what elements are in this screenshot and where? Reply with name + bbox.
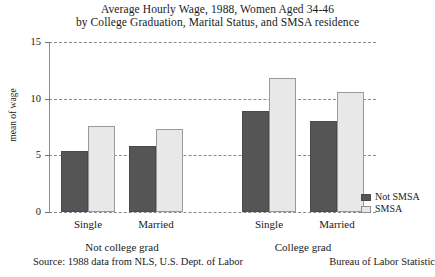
legend-item-smsa: SMSA — [361, 203, 420, 215]
bar-not-smsa-3 — [310, 121, 337, 212]
category-label-1: Married — [117, 218, 195, 230]
bar-not-smsa-0 — [61, 151, 88, 212]
bar-smsa-1 — [156, 129, 183, 212]
bar-not-smsa-2 — [242, 111, 269, 212]
bar-smsa-0 — [88, 126, 115, 212]
category-label-0: Single — [49, 218, 127, 230]
category-label-2: Single — [230, 218, 308, 230]
chart-legend: Not SMSA SMSA — [361, 191, 420, 215]
y-tick-0 — [45, 212, 50, 213]
plot-area: mean of wage 051015 SingleMarriedSingleM… — [0, 0, 435, 277]
source-note-right: Bureau of Labor Statistic — [329, 256, 435, 267]
group-label-0: Not college grad — [61, 241, 183, 253]
gridline-10 — [49, 99, 376, 100]
legend-swatch-not-smsa — [361, 194, 371, 201]
bar-smsa-2 — [269, 78, 296, 212]
y-tick-label-10: 10 — [0, 94, 41, 104]
chart-figure: Average Hourly Wage, 1988, Women Aged 34… — [0, 0, 435, 277]
y-tick-label-15: 15 — [0, 37, 41, 47]
source-note-left: Source: 1988 data from NLS, U.S. Dept. o… — [33, 256, 243, 267]
legend-label-smsa: SMSA — [375, 203, 402, 215]
y-tick-10 — [45, 99, 50, 100]
gridline-15 — [49, 42, 376, 43]
y-tick-label-0: 0 — [0, 207, 41, 217]
y-axis-line — [49, 42, 50, 213]
category-label-3: Married — [298, 218, 376, 230]
group-label-1: College grad — [242, 241, 364, 253]
legend-label-not-smsa: Not SMSA — [375, 191, 420, 203]
gridline-0 — [49, 212, 376, 213]
y-tick-label-5: 5 — [0, 150, 41, 160]
bar-not-smsa-1 — [129, 146, 156, 212]
y-tick-5 — [45, 155, 50, 156]
bar-smsa-3 — [337, 92, 364, 212]
legend-item-not-smsa: Not SMSA — [361, 191, 420, 203]
y-tick-15 — [45, 42, 50, 43]
legend-swatch-smsa — [361, 206, 371, 213]
